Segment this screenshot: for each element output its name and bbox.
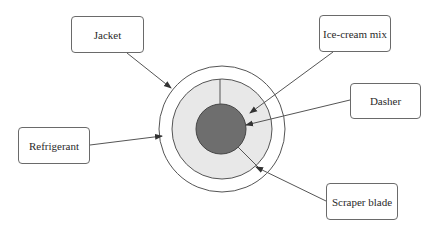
scraper-blade-leader — [256, 167, 326, 201]
jacket-label: Jacket — [71, 16, 144, 53]
ice-cream-mix-label: Ice-cream mix — [319, 15, 391, 52]
scraper-blade-label: Scraper blade — [326, 183, 398, 220]
refrigerant-leader — [90, 136, 162, 145]
dasher-label: Dasher — [350, 83, 421, 119]
jacket-leader — [127, 53, 171, 88]
refrigerant-label: Refrigerant — [18, 127, 90, 164]
dasher-core — [196, 104, 246, 154]
